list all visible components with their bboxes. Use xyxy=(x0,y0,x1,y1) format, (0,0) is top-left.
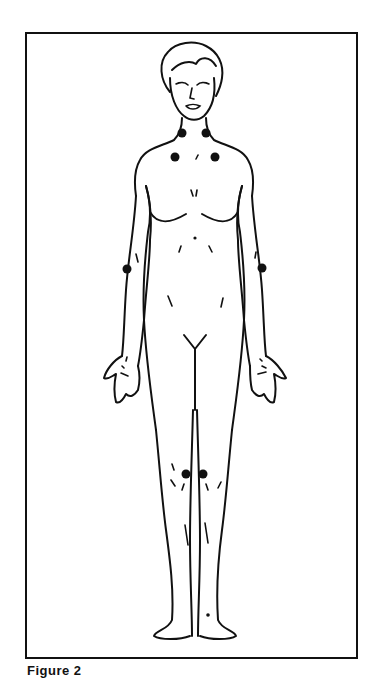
left-palm-marks xyxy=(121,357,128,376)
ankle-mark-icon xyxy=(206,613,210,617)
left-leg xyxy=(154,410,193,639)
tender-point-shoulder-right xyxy=(211,153,220,162)
right-palm-marks xyxy=(258,359,266,374)
right-hand xyxy=(250,356,286,402)
left-eye-icon xyxy=(176,83,188,85)
mouth-icon xyxy=(186,105,200,110)
groin-lines xyxy=(184,335,206,410)
tender-point-neck-left xyxy=(178,129,187,138)
chest-lines xyxy=(150,212,238,221)
left-arm xyxy=(122,186,151,366)
knee-marks xyxy=(171,464,221,545)
right-leg xyxy=(197,410,236,639)
right-eye-icon xyxy=(197,83,209,85)
collar-mark xyxy=(196,155,198,159)
right-arm xyxy=(237,186,266,366)
tender-point-elbow-right xyxy=(258,264,267,273)
navel-icon xyxy=(193,236,196,239)
elbow-mark-right xyxy=(255,252,256,258)
neck-shoulders xyxy=(135,118,253,196)
nose-icon xyxy=(190,88,194,99)
figure-caption: Figure 2 xyxy=(27,664,82,678)
left-hand xyxy=(104,356,140,402)
elbow-mark-left xyxy=(136,254,138,262)
tender-point-neck-right xyxy=(202,129,211,138)
abdomen-marks xyxy=(168,246,223,307)
tender-point-knee-left xyxy=(182,470,191,479)
tender-point-knee-right xyxy=(199,470,208,479)
tender-point-shoulder-left xyxy=(171,153,180,162)
tender-point-elbow-left xyxy=(123,265,132,274)
sternum-marks xyxy=(191,190,197,196)
